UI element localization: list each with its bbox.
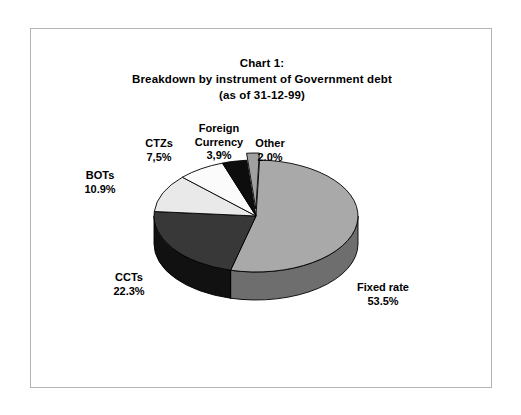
slice-label-foreign-currency-name: Foreign: [183, 122, 255, 136]
slice-label-bots: BOTs 10.9%: [69, 169, 131, 196]
chart-frame: Chart 1: Breakdown by instrument of Gove…: [30, 28, 492, 388]
slice-label-bots-name: BOTs: [69, 169, 131, 183]
slice-label-fixed-rate: Fixed rate 53.5%: [341, 281, 425, 308]
pie-chart: [31, 29, 493, 389]
slice-label-other-value: 2.0%: [243, 151, 297, 165]
slice-label-ctzs: CTZs 7,5%: [131, 137, 187, 164]
slice-label-fixed-rate-name: Fixed rate: [341, 281, 425, 295]
slice-label-bots-value: 10.9%: [69, 183, 131, 197]
slice-label-fixed-rate-value: 53.5%: [341, 295, 425, 309]
slice-label-ctzs-value: 7,5%: [131, 151, 187, 165]
chart-page: Chart 1: Breakdown by instrument of Gove…: [0, 0, 521, 415]
slice-label-ccts-name: CCTs: [99, 271, 159, 285]
slice-label-ccts-value: 22.3%: [99, 285, 159, 299]
slice-label-other-name: Other: [243, 137, 297, 151]
pie-chart-svg: [31, 29, 493, 389]
slice-label-ctzs-name: CTZs: [131, 137, 187, 151]
slice-label-other: Other 2.0%: [243, 137, 297, 164]
slice-label-ccts: CCTs 22.3%: [99, 271, 159, 298]
